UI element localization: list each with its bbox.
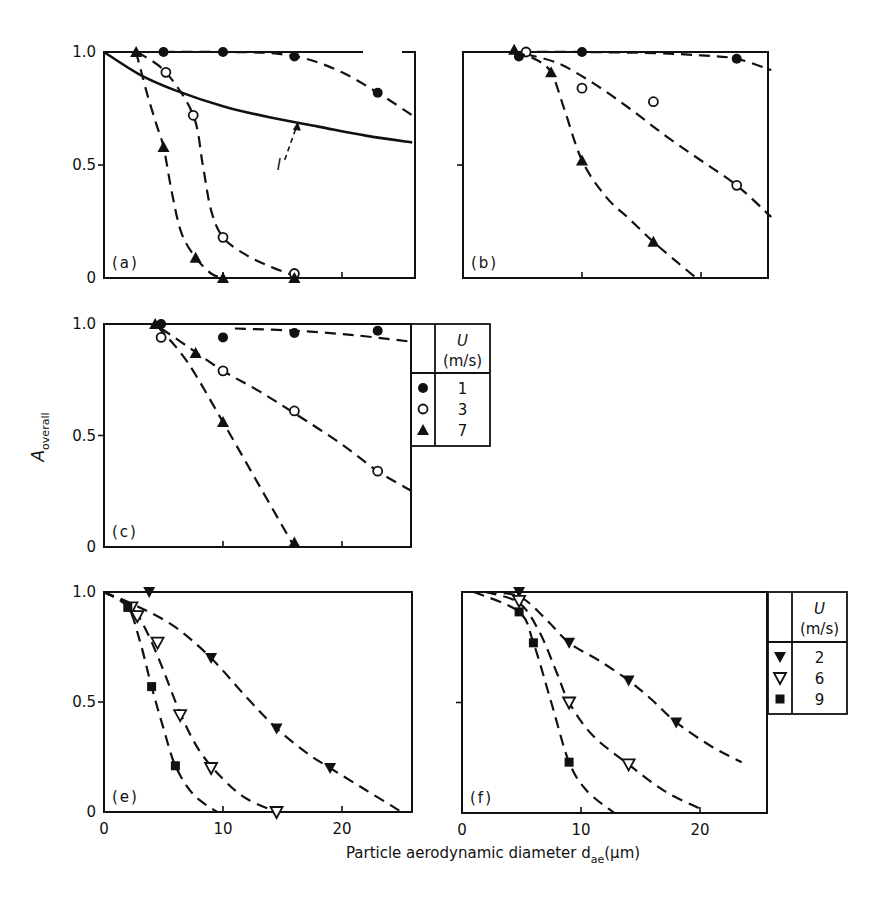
axis-frame [104, 324, 411, 547]
filled-triangle-down-marker [324, 763, 336, 774]
open-circle-marker [161, 68, 170, 77]
x-tick-label: 20 [332, 820, 351, 838]
fit-curve [104, 592, 402, 812]
open-circle-marker [732, 181, 741, 190]
legend-filled-triangle-up-icon [417, 424, 429, 435]
theory-curve [104, 52, 412, 142]
series [149, 318, 300, 548]
x-tick-label: 20 [690, 821, 709, 839]
filled-square-marker [515, 607, 524, 616]
y-axis-title: Aoverall [28, 412, 52, 462]
legend-entry-label: 7 [458, 422, 468, 440]
panels-group: 00.51.0(a)I(b)00.51.0(c)00.51.001020(e)0… [72, 43, 771, 839]
legend-filled-circle-icon [418, 383, 428, 393]
fit-curve [514, 52, 696, 278]
legend-entry-label: 6 [815, 670, 825, 688]
open-circle-marker [189, 111, 198, 120]
open-circle-marker [373, 467, 382, 476]
filled-circle-marker [577, 47, 587, 57]
filled-square-marker [565, 758, 574, 767]
legend-entry-label: 9 [815, 691, 825, 709]
axis-frame [104, 52, 415, 278]
axis-frame [104, 592, 412, 812]
panel-b: (b) [457, 44, 771, 278]
y-tick-label: 0.5 [72, 693, 96, 711]
fit-curve [164, 52, 413, 115]
x-tick-label: 10 [571, 821, 590, 839]
filled-circle-marker [373, 88, 383, 98]
filled-square-marker [171, 761, 180, 770]
x-tick-label: 10 [213, 820, 232, 838]
panel-label: (c) [112, 523, 138, 541]
filled-triangle-down-marker [623, 675, 635, 686]
filled-triangle-down-marker [563, 638, 575, 649]
fit-curve [526, 54, 771, 217]
legend-header-symbol: U [814, 600, 825, 618]
fit-curve [104, 592, 217, 812]
fit-curve [474, 592, 614, 813]
filled-circle-marker [218, 47, 228, 57]
fit-curve [158, 326, 295, 547]
fit-curve [486, 592, 700, 809]
legend-entry-label: 2 [815, 649, 825, 667]
y-axis-subscript: overall [39, 412, 52, 449]
open-triangle-down-marker [174, 710, 186, 721]
y-tick-label: 0.5 [72, 156, 96, 174]
open-circle-marker [219, 366, 228, 375]
panel-a: 00.51.0(a)I [72, 43, 415, 287]
legend-entry-label: 1 [458, 380, 468, 398]
open-circle-marker [649, 97, 658, 106]
y-tick-label: 1.0 [72, 315, 96, 333]
y-tick-label: 0 [86, 269, 96, 287]
y-tick-label: 1.0 [72, 583, 96, 601]
series [474, 592, 614, 813]
figure: 00.51.0(a)I(b)00.51.0(c)00.51.001020(e)0… [0, 0, 889, 912]
series [508, 44, 696, 278]
y-tick-label: 0 [86, 538, 96, 556]
legend-open-triangle-down-icon [774, 673, 786, 684]
series [104, 592, 217, 812]
axis-frame [463, 52, 768, 278]
chart-canvas: 00.51.0(a)I(b)00.51.0(c)00.51.001020(e)0… [0, 0, 889, 912]
legend-filled-triangle-down-icon [774, 652, 786, 663]
series [104, 587, 402, 812]
legend-2: U(m/s)269 [768, 592, 847, 714]
y-tick-label: 1.0 [72, 43, 96, 61]
x-axis-title: Particle aerodynamic diameter dae(μm) [346, 844, 640, 866]
open-triangle-down-marker [563, 698, 575, 709]
fit-curve [136, 52, 223, 278]
series [486, 592, 700, 809]
annotation-label: I [277, 156, 282, 174]
series [156, 319, 412, 342]
svg-text:Aoverall: Aoverall [28, 412, 52, 462]
series [104, 592, 283, 818]
legend-header-symbol: U [457, 332, 468, 350]
filled-triangle-up-marker [158, 141, 170, 152]
y-tick-label: 0.5 [72, 427, 96, 445]
legend-header-unit: (m/s) [800, 620, 839, 638]
filled-triangle-up-marker [217, 416, 229, 427]
filled-circle-marker [289, 52, 299, 62]
axis-frame [462, 592, 767, 813]
open-circle-marker [219, 233, 228, 242]
filled-circle-marker [289, 328, 299, 338]
x-axis-subscript: ae [591, 853, 605, 866]
series [159, 47, 413, 115]
open-circle-marker [290, 406, 299, 415]
filled-square-marker [147, 682, 156, 691]
filled-triangle-up-marker [576, 154, 588, 165]
panel-label: (b) [471, 254, 498, 272]
series [514, 47, 771, 70]
x-axis-unit: (μm) [604, 844, 640, 862]
filled-circle-marker [732, 54, 742, 64]
filled-triangle-up-marker [288, 537, 300, 548]
legend-filled-square-icon [776, 695, 785, 704]
x-tick-label: 0 [457, 821, 467, 839]
filled-triangle-up-marker [508, 44, 520, 55]
legends-group: U(m/s)137U(m/s)269 [411, 324, 847, 714]
legend-entry-label: 3 [458, 401, 468, 419]
x-tick-label: 0 [99, 820, 109, 838]
panel-label: (e) [112, 788, 139, 806]
filled-triangle-down-marker [271, 723, 283, 734]
filled-square-marker [123, 603, 132, 612]
